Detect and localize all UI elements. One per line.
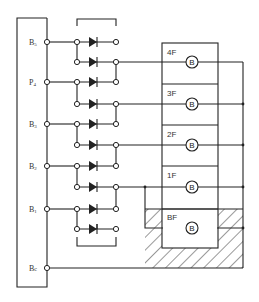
- terminal-labels: B5 P4 B3 B2 B1 Bc: [29, 38, 37, 273]
- bell-label: B: [189, 58, 194, 67]
- diode: [77, 77, 116, 87]
- terminal-label-b3: B3: [29, 120, 37, 129]
- terminal-label-p4: P4: [29, 78, 36, 87]
- circuit-diagram: B5 P4 B3 B2 B1 Bc: [0, 0, 259, 302]
- bell-label: B: [189, 141, 194, 150]
- bell-label: B: [189, 100, 194, 109]
- terminal-label-b1: B1: [29, 205, 37, 214]
- terminals: [44, 39, 118, 270]
- terminal-label-bc: Bc: [29, 264, 37, 273]
- floor-4f: 4F B: [167, 48, 198, 68]
- diode: [77, 204, 116, 214]
- diode: [77, 37, 116, 47]
- diode: [77, 182, 116, 192]
- terminal-label-b5: B5: [29, 38, 37, 47]
- diode-bank: [77, 37, 116, 234]
- floor-label: 3F: [167, 89, 176, 98]
- floor-label: 4F: [167, 48, 176, 57]
- floor-1f: 1F B: [167, 171, 198, 193]
- terminal-label-b2: B2: [29, 162, 37, 171]
- bell-label: B: [189, 183, 194, 192]
- bell-label: B: [189, 224, 194, 233]
- diode: [77, 119, 116, 129]
- diode: [77, 99, 116, 109]
- diode: [77, 140, 116, 150]
- floor-label: 2F: [167, 130, 176, 139]
- diode: [77, 161, 116, 171]
- diode-bracket-bottom: [77, 237, 116, 246]
- terminal-block: [17, 18, 47, 287]
- floor-3f: 3F B: [167, 89, 198, 110]
- floor-label: 1F: [167, 171, 176, 180]
- diode-bracket-top: [77, 19, 116, 26]
- floor-2f: 2F B: [167, 130, 198, 151]
- diode: [77, 224, 116, 234]
- diode-output-wires: [116, 62, 243, 228]
- floor-label: BF: [167, 213, 177, 222]
- diode: [77, 57, 116, 67]
